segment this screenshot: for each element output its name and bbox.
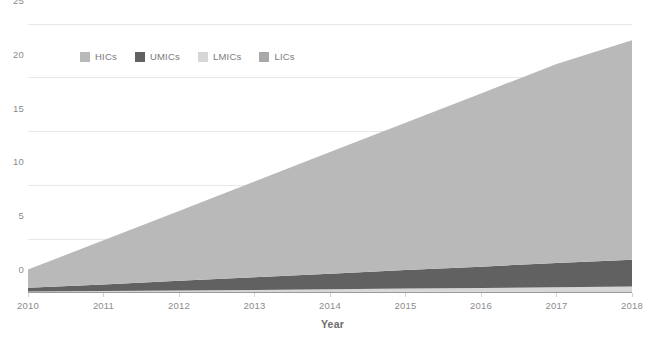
legend-item-lmics[interactable]: LMICs — [198, 51, 241, 62]
x-tick-label: 2018 — [610, 300, 654, 311]
y-tick-label: 15 — [2, 104, 24, 114]
x-tick: 2011 — [82, 293, 126, 311]
legend-item-umics[interactable]: UMICs — [135, 51, 180, 62]
legend-swatch-icon — [135, 52, 145, 62]
x-tick: 2017 — [535, 293, 579, 311]
x-tick: 2012 — [157, 293, 201, 311]
x-tick-mark — [254, 293, 255, 297]
x-tick-label: 2016 — [459, 300, 503, 311]
legend-label: HICs — [95, 51, 117, 62]
x-tick: 2014 — [308, 293, 352, 311]
x-tick-mark — [556, 293, 557, 297]
y-axis: 25 20 15 10 5 0 — [0, 0, 24, 300]
legend-item-hics[interactable]: HICs — [80, 51, 117, 62]
chart-legend: HICs UMICs LMICs LICs — [80, 51, 295, 62]
x-tick-label: 2017 — [535, 300, 579, 311]
x-tick: 2016 — [459, 293, 503, 311]
plot-svg — [28, 24, 632, 293]
y-tick-label: 20 — [2, 50, 24, 60]
x-tick: 2013 — [233, 293, 277, 311]
x-tick-mark — [28, 293, 29, 297]
x-tick: 2010 — [6, 293, 50, 311]
legend-swatch-icon — [80, 52, 90, 62]
x-tick: 2018 — [610, 293, 654, 311]
x-tick-mark — [632, 293, 633, 297]
x-tick-label: 2012 — [157, 300, 201, 311]
y-tick-label: 25 — [2, 0, 24, 6]
x-tick-label: 2014 — [308, 300, 352, 311]
x-tick-mark — [330, 293, 331, 297]
plot-area — [28, 24, 632, 293]
y-tick-label: 5 — [2, 211, 24, 221]
x-tick-label: 2013 — [233, 300, 277, 311]
legend-swatch-icon — [198, 52, 208, 62]
stacked-area-chart: 25 20 15 10 5 0 201020112012201320142015… — [0, 0, 665, 347]
legend-label: UMICs — [150, 51, 180, 62]
x-axis: 201020112012201320142015201620172018 — [28, 293, 632, 319]
legend-label: LICs — [274, 51, 294, 62]
x-axis-title: Year — [0, 318, 665, 330]
y-tick-label: 0 — [2, 265, 24, 275]
x-tick: 2015 — [384, 293, 428, 311]
x-tick-label: 2010 — [6, 300, 50, 311]
area-series-hics — [28, 40, 632, 288]
x-tick-mark — [179, 293, 180, 297]
x-tick-mark — [405, 293, 406, 297]
x-tick-mark — [103, 293, 104, 297]
x-tick-label: 2015 — [384, 300, 428, 311]
y-tick-label: 10 — [2, 157, 24, 167]
x-tick-label: 2011 — [82, 300, 126, 311]
legend-item-lics[interactable]: LICs — [259, 51, 294, 62]
legend-swatch-icon — [259, 52, 269, 62]
legend-label: LMICs — [213, 51, 241, 62]
x-tick-mark — [481, 293, 482, 297]
